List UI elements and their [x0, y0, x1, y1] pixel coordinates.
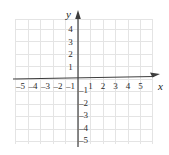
x-tick-label-neg1: –1	[65, 82, 76, 91]
coordinate-plane-figure: x y –5 –4 –3 –2 –1 1 2 3 4 5 4 3 2 1 –1 …	[0, 0, 169, 155]
y-tick-label-1: 1	[66, 63, 75, 72]
y-tick-label-neg5: –5	[79, 136, 90, 145]
y-tick-label-4: 4	[66, 25, 75, 34]
x-tick-label-2: 2	[98, 82, 108, 91]
x-tick-label-3: 3	[111, 82, 121, 91]
y-tick-label-3: 3	[66, 38, 75, 47]
y-axis-arrowhead	[75, 10, 81, 19]
y-tick-label-neg2: –2	[79, 99, 90, 108]
x-tick-label-neg3: –3	[40, 82, 51, 91]
x-axis-name-label: x	[158, 81, 163, 92]
x-tick-label-neg5: –5	[15, 82, 26, 91]
x-tick-label-neg2: –2	[53, 82, 64, 91]
y-tick-label-neg1: –1	[79, 86, 90, 95]
x-tick-label-4: 4	[123, 82, 133, 91]
y-axis-name-label: y	[66, 9, 71, 20]
x-tick-label-5: 5	[136, 82, 146, 91]
x-tick-label-neg4: –4	[28, 82, 39, 91]
y-tick-label-neg3: –3	[79, 111, 90, 120]
y-tick-label-neg4: –4	[79, 124, 90, 133]
y-tick-label-2: 2	[66, 50, 75, 59]
